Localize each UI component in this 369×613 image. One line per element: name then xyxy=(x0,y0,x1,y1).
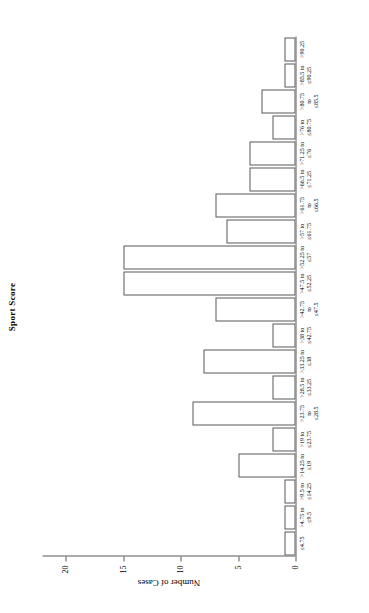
category-label: >47.5 to ≤52.25 xyxy=(298,270,312,296)
histogram-bar xyxy=(261,89,296,114)
chart-title: Sport Score xyxy=(6,0,16,613)
value-tick-label: 20 xyxy=(61,565,69,573)
histogram-bar xyxy=(249,141,295,166)
histogram-bar xyxy=(123,245,296,270)
category-label: >23.75 to ≤28.5 xyxy=(298,400,319,426)
histogram-bar xyxy=(284,63,296,88)
histogram-bar xyxy=(123,271,296,296)
category-label: >90.25 xyxy=(298,36,305,62)
value-tick xyxy=(180,556,181,561)
value-tick-label: 5 xyxy=(234,565,242,569)
histogram-bar xyxy=(284,531,296,556)
chart-canvas: Sport Score Number of Cases 05101520 ≤4.… xyxy=(0,0,369,613)
category-label: >71.25 to ≤76 xyxy=(298,140,312,166)
value-tick-label: 10 xyxy=(176,565,184,573)
category-label: >76 to ≤80.75 xyxy=(298,114,312,140)
value-axis-title: Number of Cases xyxy=(42,577,295,587)
histogram-bar xyxy=(249,167,295,192)
histogram-bar xyxy=(272,375,295,400)
category-label: >80.75 to ≤85.5 xyxy=(298,88,319,114)
category-label: ≤4.75 xyxy=(298,530,305,556)
category-label: >52.25 to ≤57 xyxy=(298,244,312,270)
category-label: >57 to ≤61.75 xyxy=(298,218,312,244)
category-label: >66.5 to ≤71.25 xyxy=(298,166,312,192)
value-tick xyxy=(295,556,296,561)
histogram-bar xyxy=(238,453,296,478)
histogram-bar xyxy=(192,401,296,426)
category-label: >4.75 to ≤9.5 xyxy=(298,504,312,530)
value-tick-label: 0 xyxy=(291,565,299,569)
histogram-bar xyxy=(203,349,295,374)
histogram-bar xyxy=(284,37,296,62)
category-label: >33.25 to ≤38 xyxy=(298,348,312,374)
category-label: >28.5 to ≤33.25 xyxy=(298,374,312,400)
category-label: >42.75 to ≤47.5 xyxy=(298,296,319,322)
histogram-bar xyxy=(272,323,295,348)
value-tick-label: 15 xyxy=(119,565,127,573)
histogram-bar xyxy=(272,115,295,140)
category-label: >9.5 to ≤14.25 xyxy=(298,478,312,504)
value-tick xyxy=(238,556,239,561)
category-label: >38 to ≤42.75 xyxy=(298,322,312,348)
histogram-bar xyxy=(215,193,296,218)
plot-area xyxy=(42,36,295,556)
histogram-bar xyxy=(284,479,296,504)
category-label: >14.25 to ≤19 xyxy=(298,452,312,478)
value-tick xyxy=(123,556,124,561)
category-label: >85.5 to ≤90.25 xyxy=(298,62,312,88)
value-tick xyxy=(65,556,66,561)
category-label: >19 to ≤23.75 xyxy=(298,426,312,452)
histogram-bar xyxy=(215,297,296,322)
histogram-bar xyxy=(272,427,295,452)
category-label: >61.75 to ≤66.5 xyxy=(298,192,319,218)
histogram-bar xyxy=(226,219,295,244)
histogram-bar xyxy=(284,505,296,530)
